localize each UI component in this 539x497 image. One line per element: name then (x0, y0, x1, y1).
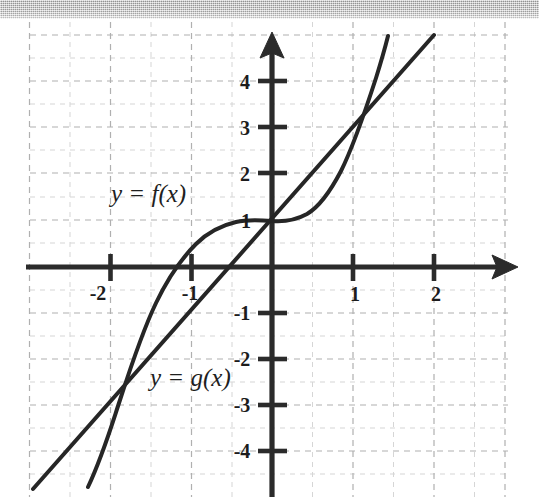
x-tick-label--1: -1 (182, 282, 199, 304)
y-tick-label-2: 2 (240, 163, 250, 185)
annotation-g-of-x: y = g(x) (147, 364, 231, 392)
y-tick-label-1: 1 (241, 210, 251, 232)
annotation-f-of-x: y = f(x) (108, 180, 186, 208)
y-tick-label-4: 4 (240, 71, 250, 93)
y-tick-label--1: -1 (234, 302, 251, 324)
x-tick-label-2: 2 (431, 283, 441, 305)
x-tick-label-1: 1 (350, 283, 360, 305)
figure-canvas: -2 -1 1 2 4 3 2 1 -1 -2 -3 -4 y = f(x) y… (0, 0, 539, 497)
y-tick-label--2: -2 (234, 348, 251, 370)
y-tick-label--3: -3 (234, 394, 251, 416)
y-tick-label--4: -4 (234, 440, 251, 462)
cartesian-plot: -2 -1 1 2 4 3 2 1 -1 -2 -3 -4 y = f(x) y… (0, 0, 539, 497)
curve-g-of-x (33, 35, 434, 489)
y-tick-label-3: 3 (240, 117, 250, 139)
axis-lines (26, 32, 518, 497)
x-tick-label--2: -2 (90, 282, 107, 304)
